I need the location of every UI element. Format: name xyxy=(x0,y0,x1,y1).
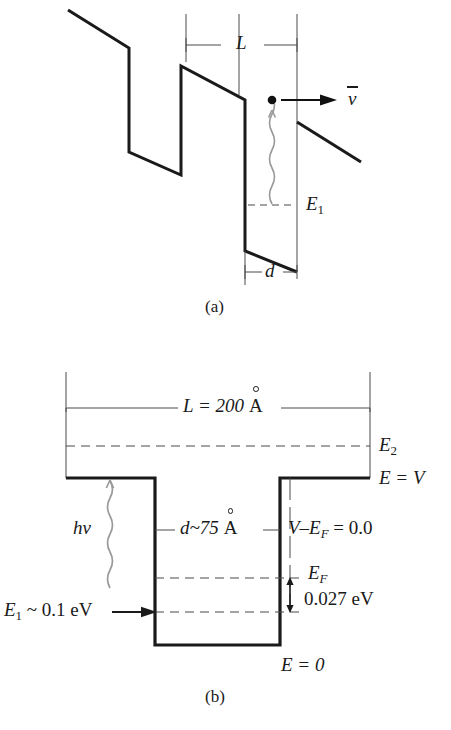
label-EF-b: EF xyxy=(308,563,328,586)
photon-wave-b xyxy=(108,481,113,588)
figure-root: L d E1 v (a) xyxy=(0,0,451,730)
photon-arrowhead-b xyxy=(106,480,113,488)
angstrom-ring-L xyxy=(253,386,259,392)
well-profile-b xyxy=(66,478,370,645)
label-V-minus-EF-base: V–E xyxy=(288,517,321,538)
label-E1-b-base: E xyxy=(4,599,16,620)
label-E2-b: E2 xyxy=(379,435,397,458)
label-d-value-b: d~75A xyxy=(180,518,238,537)
label-V-minus-EF-b: V–EF = 0.0 xyxy=(288,518,373,541)
label-E1-value-b: E1 ~ 0.1 eV xyxy=(4,600,93,623)
angstrom-letter-L: A xyxy=(249,395,263,416)
label-L-value-b: L = 200A xyxy=(183,396,263,415)
label-V-minus-EF-sub: F xyxy=(321,526,329,541)
label-E2-b-base: E xyxy=(379,434,391,455)
caption-panel-b: (b) xyxy=(205,688,225,705)
label-E-equals-V-b: E = V xyxy=(379,468,425,487)
label-d-value-b-text: d~75 xyxy=(180,517,219,538)
angstrom-letter-d: A xyxy=(224,517,238,538)
label-L-value-b-text: L = 200 xyxy=(183,395,244,416)
angstrom-unit-L-b: A xyxy=(249,396,263,415)
label-photon-hv-b: hv xyxy=(73,518,91,537)
label-E1-b-value: ~ 0.1 eV xyxy=(22,599,92,620)
gap-number: 0.027 eV xyxy=(304,588,374,609)
label-EF-b-base: E xyxy=(308,562,320,583)
label-V-minus-EF-value: = 0.0 xyxy=(329,517,373,538)
angstrom-unit-d-b: A xyxy=(224,518,238,537)
label-E2-b-sub: 2 xyxy=(391,443,397,458)
label-gap-value-b: 0.027 eV xyxy=(304,589,374,608)
label-E-equals-0-b: E = 0 xyxy=(281,655,324,674)
label-EF-b-sub: F xyxy=(320,571,328,586)
